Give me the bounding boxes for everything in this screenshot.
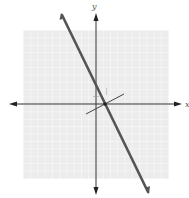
y-axis-up-arrow-icon xyxy=(94,13,99,21)
intersection-point xyxy=(103,102,107,106)
x-axis-left-arrow-icon xyxy=(9,102,17,107)
x-axis-right-arrow-icon xyxy=(174,102,182,107)
y-axis-label: y xyxy=(91,2,97,11)
coordinate-plane: x y xyxy=(0,0,189,198)
x-axis-label: x xyxy=(185,100,189,109)
y-axis-down-arrow-icon xyxy=(94,187,99,195)
